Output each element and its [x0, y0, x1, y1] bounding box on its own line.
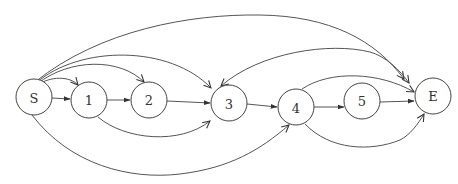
- edge-1-3-arc: [98, 117, 210, 137]
- edge-2-3: [167, 101, 210, 103]
- edge-3-4: [247, 104, 277, 107]
- node-2: 2: [131, 82, 167, 118]
- node-label: 5: [358, 94, 366, 109]
- node-label: 1: [85, 93, 93, 108]
- node-3: 3: [211, 85, 247, 121]
- node-5: 5: [344, 83, 380, 119]
- edge-S-1: [52, 98, 70, 99]
- edge-5-E: [380, 101, 414, 102]
- node-label: E: [428, 89, 438, 104]
- edge-S-2-arc: [37, 64, 144, 84]
- node-E: E: [415, 78, 451, 114]
- node-S: S: [16, 79, 52, 115]
- node-label: 4: [292, 101, 300, 116]
- node-label: 2: [145, 93, 153, 108]
- graph-canvas: S 1 2 3 4 5 E: [0, 0, 458, 184]
- node-label: 3: [225, 97, 233, 112]
- edge-S-4-arc: [32, 115, 289, 175]
- node-label: S: [30, 91, 39, 106]
- node-1: 1: [71, 82, 107, 118]
- edge-S-3-arc: [36, 55, 211, 88]
- node-4: 4: [278, 89, 314, 125]
